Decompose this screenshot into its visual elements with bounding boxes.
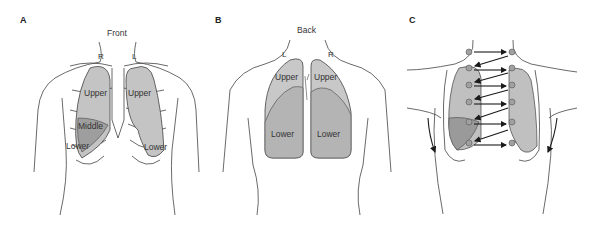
panel-c-auscultation-sequence: C: [395, 0, 595, 227]
lobe-label-left-upper: Upper: [128, 88, 151, 98]
panel-label: A: [20, 15, 27, 25]
panel-label: C: [409, 15, 416, 25]
back-torso-illustration: [195, 0, 395, 227]
panel-b-back-view: B Back L R Upper Upper Lower Lower: [195, 0, 395, 227]
lobe-label-right-lower: Lower: [317, 129, 340, 139]
side-label-right: R: [98, 52, 104, 61]
lobe-label-right-lower: Lower: [66, 141, 89, 151]
lobe-label-right-middle: Middle: [78, 121, 103, 131]
side-label-left: L: [132, 52, 136, 61]
lobe-label-left-lower: Lower: [144, 142, 167, 152]
auscultation-arrows: [428, 52, 557, 152]
left-lung: [509, 68, 537, 152]
lobe-label-right-upper: Upper: [84, 88, 107, 98]
view-label: Front: [107, 28, 127, 38]
lobe-label-left-lower: Lower: [271, 129, 294, 139]
side-label-right: R: [328, 50, 334, 59]
panel-label: B: [215, 15, 222, 25]
panel-a-front-view: A Front R L Upper Middle Lower Upper Low…: [0, 0, 200, 227]
auscultation-diagram: [395, 0, 595, 227]
lobe-label-left-upper: Upper: [275, 72, 298, 82]
side-label-left: L: [282, 50, 286, 59]
front-torso-illustration: [0, 0, 200, 227]
view-label: Back: [297, 25, 316, 35]
lobe-label-right-upper: Upper: [314, 72, 337, 82]
